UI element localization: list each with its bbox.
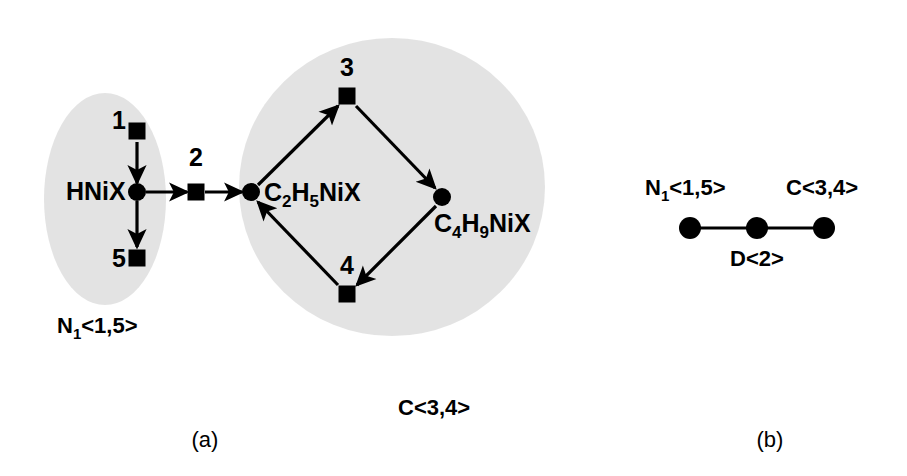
panel-a: 1 2 3 4 5 HNiX C2H5NiX C4H9NiX N1<1,5> C… <box>44 38 545 452</box>
figure-root: 1 2 3 4 5 HNiX C2H5NiX C4H9NiX N1<1,5> C… <box>0 0 907 476</box>
reaction-label-1: 1 <box>112 106 126 134</box>
graph-label-c: C<3,4> <box>786 175 858 200</box>
group-label-c: C<3,4> <box>398 395 470 420</box>
graph-label-d: D<2> <box>730 246 784 271</box>
group-blob-c <box>239 38 545 336</box>
reaction-label-2: 2 <box>189 143 203 171</box>
species-node-c2h5nix[interactable] <box>242 183 260 201</box>
graph-label-n1: N1<1,5> <box>645 175 726 204</box>
species-node-c4h9nix[interactable] <box>433 188 451 206</box>
graph-node-c[interactable] <box>813 217 835 239</box>
panel-b: N1<1,5> D<2> C<3,4> (b) <box>645 175 858 452</box>
graph-node-d[interactable] <box>746 217 768 239</box>
species-label-hnix: HNiX <box>66 177 126 205</box>
reaction-node-1[interactable] <box>129 123 146 140</box>
reaction-node-5[interactable] <box>129 250 146 267</box>
reaction-label-3: 3 <box>340 53 354 81</box>
reaction-node-2[interactable] <box>188 184 205 201</box>
species-node-hnix[interactable] <box>128 183 146 201</box>
panel-caption-a: (a) <box>192 427 219 452</box>
group-label-n1: N1<1,5> <box>57 313 138 342</box>
reaction-label-4: 4 <box>340 251 354 279</box>
figure-canvas: 1 2 3 4 5 HNiX C2H5NiX C4H9NiX N1<1,5> C… <box>0 0 907 476</box>
reaction-node-4[interactable] <box>339 286 356 303</box>
reaction-node-3[interactable] <box>339 88 356 105</box>
graph-node-n1[interactable] <box>679 217 701 239</box>
panel-caption-b: (b) <box>757 427 784 452</box>
reaction-label-5: 5 <box>112 244 126 272</box>
